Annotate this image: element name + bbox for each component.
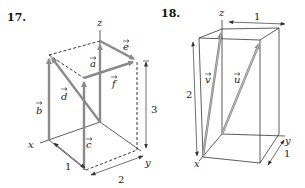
dimension-top-line xyxy=(229,22,285,24)
label-u: u xyxy=(234,73,240,86)
dimension-height-label: 3 xyxy=(151,104,157,115)
top-front-edge xyxy=(199,38,260,40)
y-axis-label: y xyxy=(144,157,151,168)
dimension-height-line-18 xyxy=(193,42,197,156)
figure-18-number: 18. xyxy=(161,7,180,20)
label-d: d xyxy=(61,88,67,103)
y-axis-line xyxy=(100,122,141,151)
dimension-top-label: 1 xyxy=(254,11,260,22)
dimension-depth-line xyxy=(268,140,284,165)
svg-text:a: a xyxy=(90,58,96,69)
svg-text:b: b xyxy=(36,105,42,116)
svg-text:e: e xyxy=(123,41,129,52)
z-axis-label: z xyxy=(96,17,103,28)
dimension-y-line xyxy=(91,156,143,175)
x-axis-label: x xyxy=(28,139,34,150)
top-left-edge xyxy=(199,29,222,38)
dimension-depth-label: 1 xyxy=(284,148,290,159)
svg-text:c: c xyxy=(86,139,92,150)
figure-17: 17. z x y a b xyxy=(7,11,157,185)
top-right-edge xyxy=(260,28,279,40)
top-back-edge xyxy=(222,28,279,29)
z-axis-label-18: z xyxy=(218,7,225,18)
x-axis-label-18: x xyxy=(194,158,200,169)
top-front-left-edge xyxy=(49,55,84,78)
diagram-canvas: 17. z x y a b xyxy=(0,0,305,188)
front-left-vertical xyxy=(199,38,203,157)
figure-18: 18. z x y v u 1 xyxy=(161,7,291,169)
bottom-front-right-edge xyxy=(86,150,137,170)
figure-17-number: 17. xyxy=(7,11,26,24)
dimension-height-label-18: 2 xyxy=(186,89,192,100)
label-b: b xyxy=(36,102,42,117)
top-back-left-edge xyxy=(49,41,100,55)
bottom-front-edge xyxy=(203,157,260,163)
svg-text:f: f xyxy=(111,78,118,89)
label-c: c xyxy=(86,138,92,151)
y-axis-line-18 xyxy=(222,134,285,136)
label-a: a xyxy=(90,57,96,70)
label-e: e xyxy=(123,40,129,53)
y-axis-label-18: y xyxy=(284,135,291,146)
svg-text:v: v xyxy=(205,74,211,85)
dimension-x-label: 1 xyxy=(65,161,71,172)
label-v: v xyxy=(205,73,211,86)
svg-text:u: u xyxy=(234,74,240,85)
svg-text:d: d xyxy=(61,91,67,102)
dimension-y-label: 2 xyxy=(118,174,124,185)
bottom-right-edge xyxy=(260,134,279,163)
label-f: f xyxy=(111,76,118,90)
